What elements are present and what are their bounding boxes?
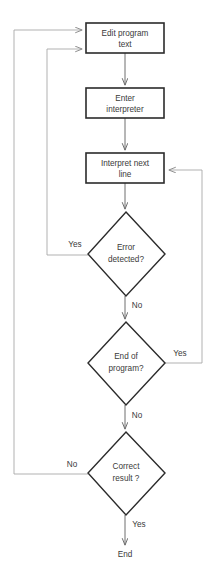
flowchart-canvas: Edit program text Enter interpreter Inte…	[0, 0, 217, 572]
node-end-label: End	[118, 550, 133, 559]
flowchart-svg: Edit program text Enter interpreter Inte…	[0, 0, 217, 572]
node-interpret-next-line-line1: Interpret next	[101, 159, 150, 168]
edge-error-yes-to-edit	[47, 49, 88, 255]
node-correct-result[interactable]: Correct result ?	[88, 432, 165, 515]
edge-label-error-no: No	[132, 301, 143, 310]
node-enter-interpreter-line2: interpreter	[106, 105, 144, 114]
node-edit-program-text-line1: Edit program	[102, 29, 149, 38]
node-edit-program-text[interactable]: Edit program text	[86, 23, 164, 53]
edge-label-endprog-no: No	[132, 411, 143, 420]
edge-label-endprog-yes: Yes	[173, 349, 186, 358]
edge-endprog-yes-to-interpret	[165, 170, 202, 363]
edge-label-correct-yes: Yes	[132, 520, 145, 529]
node-edit-program-text-line2: text	[118, 40, 132, 49]
node-correct-result-line2: result ?	[113, 474, 140, 483]
node-correct-result-line1: Correct	[113, 462, 141, 471]
node-interpret-next-line-line2: line	[119, 170, 132, 179]
node-end-of-program[interactable]: End of program?	[88, 322, 165, 405]
node-enter-interpreter[interactable]: Enter interpreter	[86, 88, 164, 118]
edge-label-correct-no: No	[67, 460, 78, 469]
edge-correct-no-to-edit	[14, 30, 88, 474]
node-enter-interpreter-line1: Enter	[115, 94, 135, 103]
edge-label-error-yes: Yes	[68, 240, 81, 249]
node-error-detected[interactable]: Error detected?	[88, 212, 165, 296]
node-end-of-program-line2: program?	[108, 364, 143, 373]
node-end-of-program-line1: End of	[114, 352, 138, 361]
node-error-detected-line1: Error	[117, 243, 135, 252]
node-end: End	[118, 550, 133, 559]
node-interpret-next-line[interactable]: Interpret next line	[86, 153, 164, 183]
node-error-detected-line2: detected?	[108, 255, 144, 264]
